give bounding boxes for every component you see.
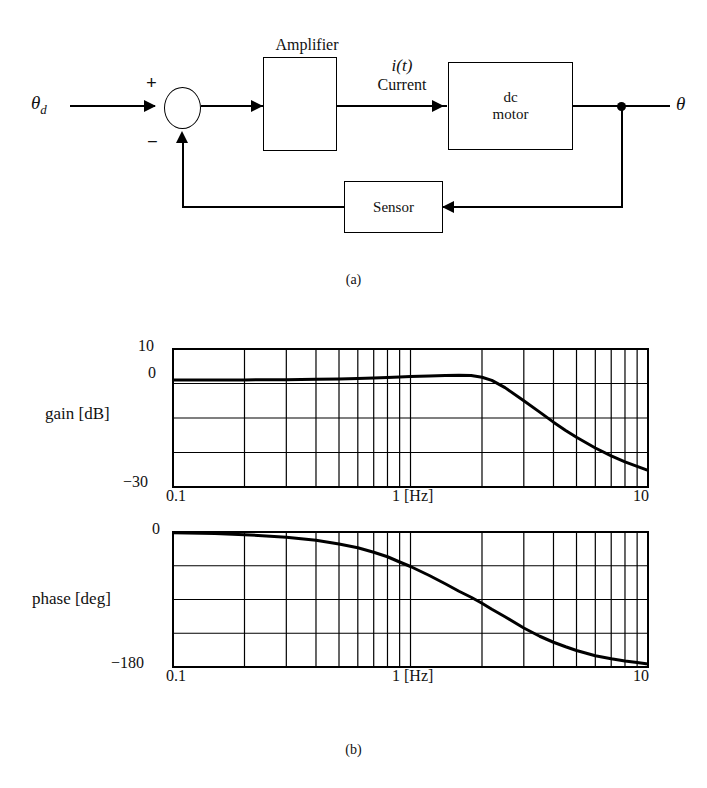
sensor-block: Sensor <box>344 181 443 233</box>
current-wire-arrow <box>432 100 444 112</box>
feedback-wire-vertical-left <box>182 143 184 207</box>
plus-sign: + <box>146 72 157 94</box>
dc-motor-block: dc motor <box>448 62 573 150</box>
current-signal-label: i(t) Current <box>360 56 444 94</box>
summing-junction <box>164 87 201 129</box>
block-diagram: θd + − Amplifier i(t) Current <box>0 0 707 265</box>
dc-motor-label: dc motor <box>493 89 529 123</box>
phase-plot-xtick-left: 0.1 <box>166 667 186 685</box>
feedback-wire-to-sensor <box>441 206 621 208</box>
caption-b: (b) <box>0 742 707 758</box>
dc-motor-label-line1: dc <box>493 89 529 106</box>
input-signal-label: θd <box>31 92 47 114</box>
sensor-block-label: Sensor <box>373 199 414 216</box>
gain-plot-ytick-bottom: −30 <box>123 473 148 491</box>
output-signal-label: θ <box>676 93 685 115</box>
phase-plot-ytick-top: 0 <box>152 520 160 538</box>
caption-a: (a) <box>0 272 707 288</box>
feedback-into-sum-arrow <box>176 131 188 143</box>
bode-plots: gain [dB] 10 0 −30 0.1 1 [Hz] 10 phase [… <box>0 330 707 760</box>
figure-page: θd + − Amplifier i(t) Current <box>0 0 707 788</box>
feedback-wire-from-sensor <box>182 206 345 208</box>
input-wire-arrow <box>144 100 156 112</box>
amplifier-block <box>263 57 337 151</box>
gain-plot-xtick-right: 10 <box>633 487 649 505</box>
gain-plot-ytick-mid: 0 <box>148 364 156 382</box>
input-signal-subscript: d <box>40 102 47 117</box>
feedback-wire-vertical-right <box>621 105 623 208</box>
input-signal-theta: θ <box>31 92 40 113</box>
current-word: Current <box>360 75 444 94</box>
gain-plot-ytick-top: 10 <box>138 337 154 355</box>
phase-plot-xtick-right: 10 <box>633 667 649 685</box>
phase-plot-ylabel: phase [deg] <box>32 589 111 609</box>
current-symbol: i(t) <box>360 56 444 75</box>
minus-sign: − <box>147 131 158 153</box>
sum-to-amplifier-arrow <box>251 100 263 112</box>
feedback-to-sensor-arrow <box>442 201 454 213</box>
phase-plot-xtick-mid: 1 [Hz] <box>392 667 433 685</box>
phase-plot-ytick-bottom: −180 <box>111 654 144 672</box>
input-wire <box>70 105 155 107</box>
gain-plot-xtick-left: 0.1 <box>166 487 186 505</box>
amplifier-title: Amplifier <box>262 36 352 53</box>
dc-motor-label-line2: motor <box>493 106 529 123</box>
gain-plot-xtick-mid: 1 [Hz] <box>392 487 433 505</box>
current-wire <box>337 105 447 107</box>
phase-plot-canvas <box>172 531 649 668</box>
gain-plot-ylabel: gain [dB] <box>45 404 110 424</box>
gain-plot-canvas <box>172 348 649 488</box>
